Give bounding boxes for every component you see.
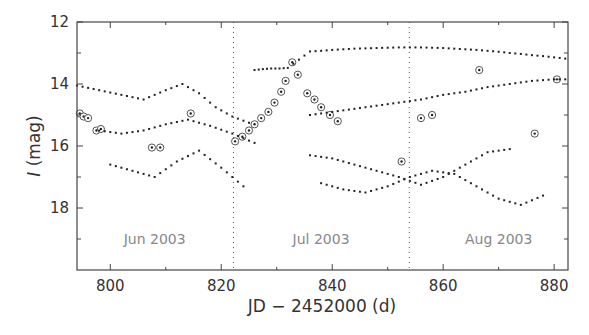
data-series [76, 59, 560, 165]
y-axis-title: I (mag) [24, 115, 44, 176]
data-series [309, 148, 511, 186]
x-tick-label: 860 [429, 277, 458, 295]
light-curve-chart: Jun 2003Jul 2003Aug 2003 800820840860880… [0, 0, 589, 335]
data-series [76, 83, 250, 124]
month-label: Jun 2003 [123, 231, 186, 247]
y-tick-label: 12 [50, 13, 69, 31]
x-axis-title: JD − 2452000 (d) [247, 296, 396, 316]
x-tick-label: 840 [318, 277, 347, 295]
x-tick-label: 880 [540, 277, 569, 295]
month-label: Aug 2003 [465, 231, 532, 247]
x-tick-label: 820 [207, 277, 236, 295]
data-series [309, 78, 566, 116]
y-tick-label: 18 [50, 199, 69, 217]
y-tick-label: 14 [50, 75, 69, 93]
x-tick-label: 800 [96, 277, 125, 295]
month-label: Jul 2003 [292, 231, 350, 247]
y-tick-label: 16 [50, 137, 69, 155]
data-series [109, 150, 244, 188]
axes: 80082084086088012141618 [50, 13, 569, 295]
data-series [254, 46, 567, 71]
plot-area: Jun 2003Jul 2003Aug 2003 [76, 22, 566, 270]
data-series [320, 170, 544, 206]
